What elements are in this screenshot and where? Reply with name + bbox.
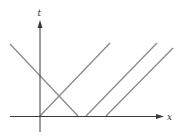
ascending-line-1 [40,43,110,116]
descending-line [10,44,78,116]
t-axis-label: t [38,8,42,18]
ascending-line-2 [86,43,157,116]
t-axis-arrow-icon [38,20,43,28]
spacetime-diagram: t x [0,0,184,136]
x-axis-arrow-icon [156,114,164,119]
x-axis-label: x [167,112,172,122]
ascending-line-3 [106,48,173,116]
world-lines [10,43,173,116]
